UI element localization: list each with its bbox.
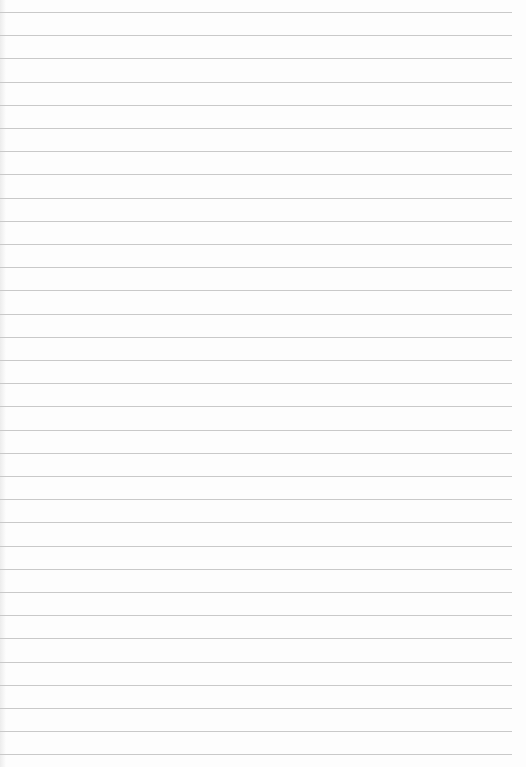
ruled-line: [0, 430, 512, 431]
ruled-line: [0, 314, 512, 315]
ruled-line: [0, 383, 512, 384]
ruled-line: [0, 151, 512, 152]
ruled-line: [0, 82, 512, 83]
ruled-line: [0, 244, 512, 245]
ruled-line: [0, 662, 512, 663]
ruled-line: [0, 592, 512, 593]
ruled-line: [0, 105, 512, 106]
ruled-line: [0, 522, 512, 523]
ruled-line: [0, 708, 512, 709]
lined-paper-sheet: [0, 0, 526, 767]
ruled-line: [0, 615, 512, 616]
ruled-line: [0, 731, 512, 732]
ruled-line: [0, 476, 512, 477]
ruled-line: [0, 267, 512, 268]
ruled-line: [0, 35, 512, 36]
ruled-line: [0, 546, 512, 547]
ruled-line: [0, 685, 512, 686]
ruled-line: [0, 569, 512, 570]
ruled-line: [0, 499, 512, 500]
ruled-line: [0, 406, 512, 407]
ruled-line: [0, 337, 512, 338]
ruled-line: [0, 360, 512, 361]
ruled-line: [0, 754, 512, 755]
ruled-line: [0, 221, 512, 222]
ruled-line: [0, 58, 512, 59]
ruled-line: [0, 638, 512, 639]
ruled-line: [0, 12, 512, 13]
ruled-line: [0, 128, 512, 129]
ruled-line: [0, 198, 512, 199]
ruled-line: [0, 453, 512, 454]
ruled-line: [0, 174, 512, 175]
ruled-line: [0, 290, 512, 291]
